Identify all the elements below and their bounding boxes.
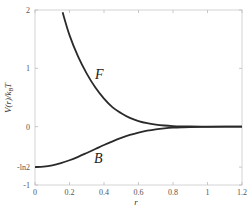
- y-axis-label: V(r)/kBT: [3, 82, 14, 113]
- curve-label-f: F: [94, 67, 104, 82]
- x-tick-label: 0: [33, 188, 37, 197]
- x-tick-label: 1.2: [237, 188, 247, 197]
- curve-label-b: B: [94, 151, 103, 166]
- y-axis-label-tail: T: [3, 82, 13, 88]
- svg-text:V(r)/kBT: V(r)/kBT: [3, 82, 14, 113]
- y-axis-label-main: V(r)/k: [3, 91, 13, 113]
- x-tick-label: 0.6: [134, 188, 144, 197]
- y-tick-label: -1: [23, 181, 30, 190]
- y-tick-label: 0: [26, 123, 30, 132]
- x-tick-label: 0.2: [65, 188, 75, 197]
- x-axis-label: r: [134, 197, 138, 207]
- plot-frame: [35, 10, 242, 185]
- x-tick-label: 0.4: [99, 188, 109, 197]
- y-tick-label: 2: [26, 6, 30, 15]
- x-axis-ticks: 00.20.40.60.811.2: [33, 10, 247, 197]
- y-axis-ticks: 210-ln2-1: [17, 6, 242, 190]
- y-tick-label: -ln2: [17, 163, 30, 172]
- curve-b: [35, 127, 242, 167]
- x-tick-label: 1: [206, 188, 210, 197]
- y-tick-label: 1: [26, 64, 30, 73]
- x-tick-label: 0.8: [168, 188, 178, 197]
- chart: 00.20.40.60.811.2 210-ln2-1 F B r V(r)/k…: [0, 0, 252, 213]
- curves: [35, 12, 242, 167]
- curve-f: [63, 12, 242, 126]
